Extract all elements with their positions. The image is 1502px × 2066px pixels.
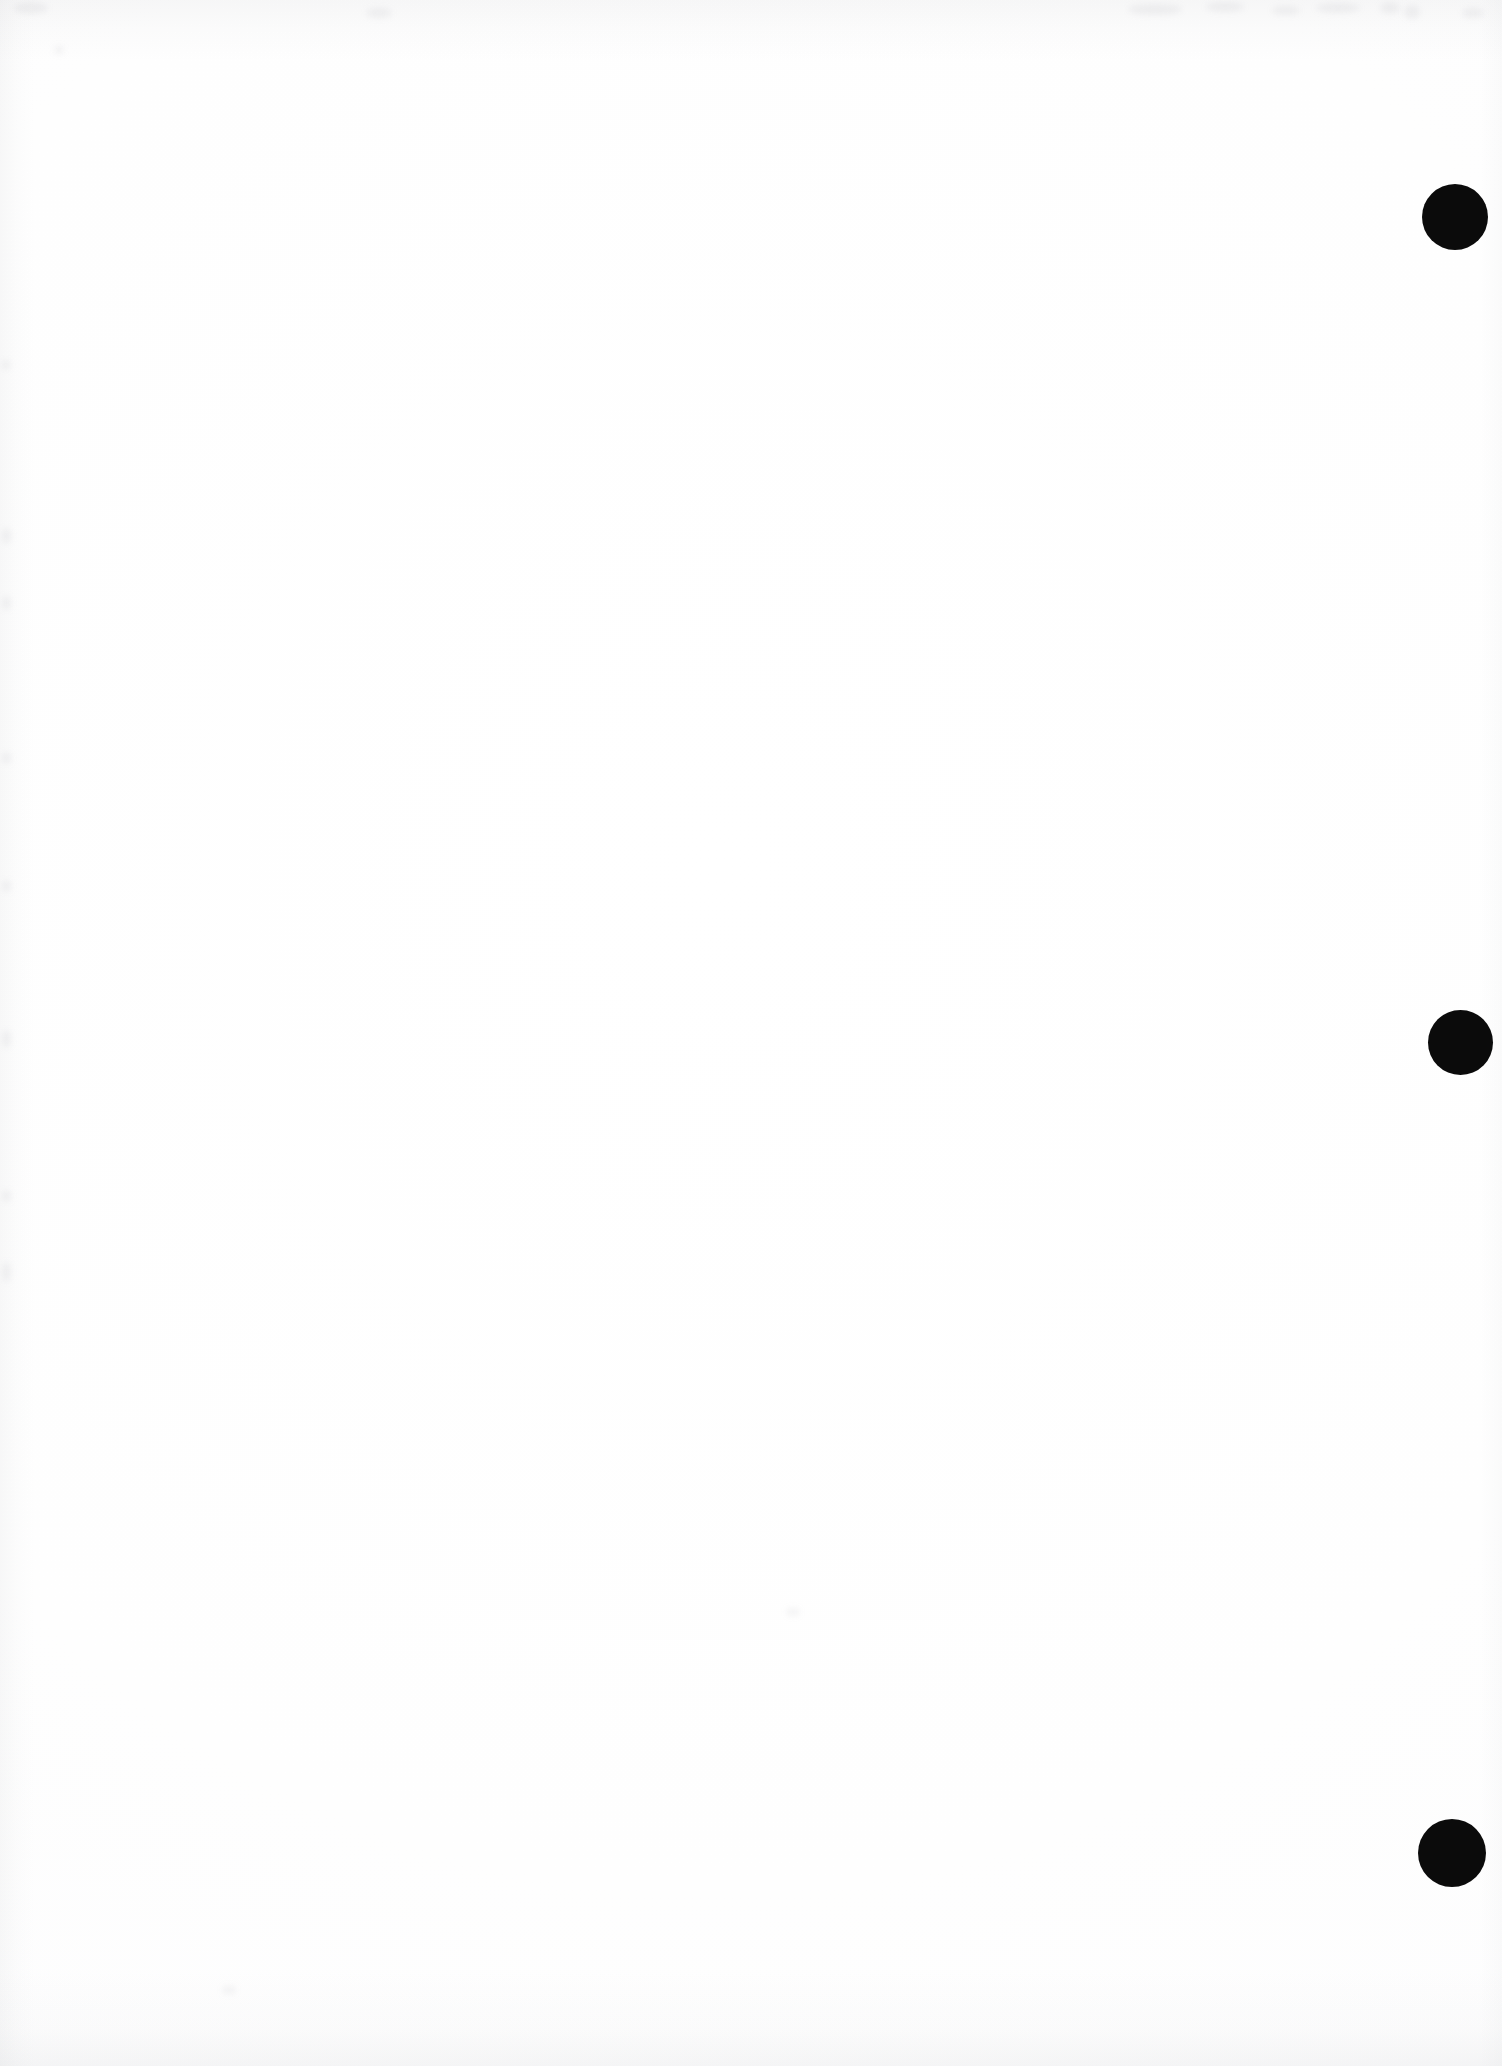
scan-smudge [222, 1986, 236, 1994]
paper-background [0, 0, 1502, 2066]
scan-shading-top-edge [0, 0, 1502, 62]
scan-smudge [786, 1608, 800, 1616]
scan-smudge [1272, 6, 1300, 15]
scan-smudge [366, 8, 392, 18]
scan-smudge [1128, 4, 1182, 15]
scan-smudge [1404, 5, 1420, 19]
scan-smudge [54, 46, 64, 54]
scan-shading-left-edge [0, 0, 34, 2066]
scan-smudge [2, 360, 10, 370]
scan-smudge [1206, 2, 1244, 12]
scan-smudge [2, 1190, 11, 1202]
scan-smudge [1462, 8, 1484, 18]
scan-smudge [1380, 2, 1400, 14]
scan-smudge [14, 2, 48, 14]
scan-smudge [2, 596, 11, 610]
scanned-page: Blank page with three black registration… [0, 0, 1502, 2066]
scan-smudge [2, 1262, 11, 1282]
scan-smudge [1316, 3, 1360, 13]
scan-smudge [2, 1030, 11, 1048]
margin-dot-3 [1418, 1819, 1486, 1887]
margin-dot-1 [1422, 184, 1488, 250]
margin-dot-2 [1428, 1010, 1493, 1075]
scan-smudge [2, 880, 11, 892]
scan-smudge [2, 752, 11, 764]
scan-shading-bottom-edge [0, 1970, 1502, 2066]
scan-smudge [2, 528, 11, 544]
